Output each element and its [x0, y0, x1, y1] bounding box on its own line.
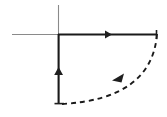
contour-diagram	[0, 0, 167, 117]
arrow-up-icon	[54, 67, 63, 75]
dashed-arc	[62, 34, 157, 104]
arrow-arc-icon	[112, 74, 124, 83]
figure-root	[0, 0, 167, 117]
arrow-right-icon	[105, 31, 112, 39]
